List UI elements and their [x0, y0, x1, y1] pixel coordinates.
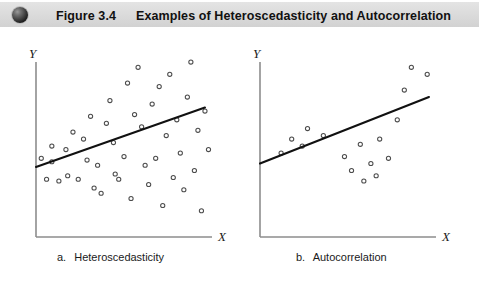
figure-header-band: Figure 3.4 Examples of Heteroscedasticit…	[0, 2, 479, 27]
scatter-plot-autocorrelation: Y X	[246, 30, 466, 245]
axes-group-a	[36, 62, 212, 237]
data-point	[50, 144, 54, 148]
chart-panel-heteroscedasticity: Y X	[22, 30, 242, 245]
data-point	[378, 137, 382, 141]
data-point	[129, 196, 133, 200]
data-point	[108, 98, 112, 102]
data-point	[358, 142, 362, 146]
data-point	[71, 130, 75, 134]
data-point	[425, 72, 429, 76]
data-point	[369, 161, 373, 165]
data-point	[99, 191, 103, 195]
data-points-b	[279, 65, 429, 183]
data-point	[154, 156, 158, 160]
data-point	[178, 151, 182, 155]
data-point	[189, 60, 193, 64]
data-point	[182, 188, 186, 192]
y-axis-label-b: Y	[253, 46, 262, 61]
scatter-plot-heteroscedasticity: Y X	[22, 30, 242, 245]
data-point	[203, 109, 207, 113]
x-axis-label-b: X	[441, 229, 451, 244]
data-point	[143, 163, 147, 167]
figure-title: Examples of Heteroscedasticity and Autoc…	[136, 9, 451, 23]
chart-panel-autocorrelation: Y X	[246, 30, 466, 245]
data-point	[85, 158, 89, 162]
sphere-bullet-icon	[12, 7, 28, 23]
data-point	[290, 137, 294, 141]
data-point	[147, 182, 151, 186]
data-point	[185, 95, 189, 99]
data-point	[57, 179, 61, 183]
data-point	[168, 72, 172, 76]
data-point	[349, 168, 353, 172]
data-point	[199, 209, 203, 213]
data-point	[88, 114, 92, 118]
caption-autocorrelation: b. Autocorrelation	[296, 251, 387, 263]
data-point	[157, 84, 161, 88]
caption-text-b: Autocorrelation	[313, 251, 387, 263]
data-point	[395, 118, 399, 122]
data-point	[76, 177, 80, 181]
x-axis-label-a: X	[217, 229, 227, 244]
data-point	[150, 102, 154, 106]
axes-group-b	[260, 62, 436, 237]
data-point	[196, 128, 200, 132]
data-point	[39, 156, 43, 160]
data-point	[64, 147, 68, 151]
data-point	[362, 179, 366, 183]
data-point	[161, 203, 165, 207]
data-point	[117, 177, 121, 181]
data-point	[164, 133, 168, 137]
data-point	[171, 175, 175, 179]
data-point	[409, 65, 413, 69]
regression-line-b	[260, 97, 429, 164]
figure-container: Figure 3.4 Examples of Heteroscedasticit…	[0, 0, 479, 281]
data-point	[136, 65, 140, 69]
figure-header-text: Figure 3.4 Examples of Heteroscedasticit…	[56, 7, 451, 24]
data-point	[192, 168, 196, 172]
data-point	[122, 154, 126, 158]
caption-heteroscedasticity: a. Heteroscedasticity	[57, 251, 164, 263]
data-point	[113, 172, 117, 176]
data-point	[66, 174, 70, 178]
data-point	[374, 174, 378, 178]
data-point	[386, 156, 390, 160]
data-point	[44, 177, 48, 181]
data-point	[96, 163, 100, 167]
data-point	[305, 126, 309, 130]
data-point	[132, 112, 136, 116]
data-point	[342, 154, 346, 158]
caption-letter-b: b.	[296, 251, 305, 263]
regression-line-a	[36, 108, 205, 168]
y-axis-label-a: Y	[29, 46, 38, 61]
figure-number: Figure 3.4	[56, 9, 116, 23]
caption-text-a: Heteroscedasticity	[74, 251, 164, 263]
data-point	[104, 121, 108, 125]
data-point	[81, 137, 85, 141]
data-point	[125, 81, 129, 85]
data-point	[206, 147, 210, 151]
caption-letter-a: a.	[57, 251, 66, 263]
data-point	[92, 186, 96, 190]
data-point	[402, 88, 406, 92]
